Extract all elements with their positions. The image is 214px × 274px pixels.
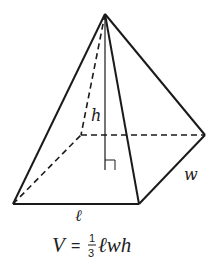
formula-lhs: V bbox=[52, 233, 67, 257]
hidden-edges bbox=[13, 14, 205, 204]
formula-equals: = bbox=[71, 237, 80, 254]
hidden-edge-frontleft-backleft bbox=[13, 135, 81, 204]
height-label: h bbox=[91, 106, 101, 125]
width-label: w bbox=[184, 165, 198, 184]
formula-denominator: 3 bbox=[88, 247, 94, 259]
formula-rhs: ℓwh bbox=[98, 233, 131, 257]
length-label: ℓ bbox=[75, 206, 82, 225]
right-angle-marker bbox=[105, 160, 115, 170]
edge-apex-frontright bbox=[105, 14, 139, 204]
formula-numerator: 1 bbox=[89, 232, 95, 244]
volume-formula: V = 1 3 ℓwh bbox=[52, 232, 131, 259]
edge-apex-backright bbox=[105, 14, 205, 135]
pyramid-diagram: h ℓ w V = 1 3 ℓwh bbox=[0, 0, 214, 274]
